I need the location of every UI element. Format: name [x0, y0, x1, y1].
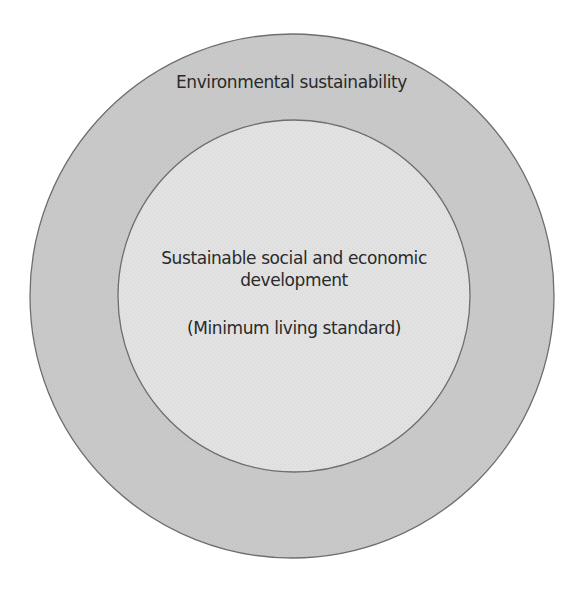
inner-label-line-1: Sustainable social and economic — [0, 247, 583, 269]
outer-circle-label: Environmental sustainability — [0, 72, 583, 92]
inner-circle-label: Sustainable social and economic developm… — [0, 247, 583, 291]
inner-circle-sublabel: (Minimum living standard) — [0, 318, 583, 338]
inner-label-line-2: development — [0, 269, 583, 291]
